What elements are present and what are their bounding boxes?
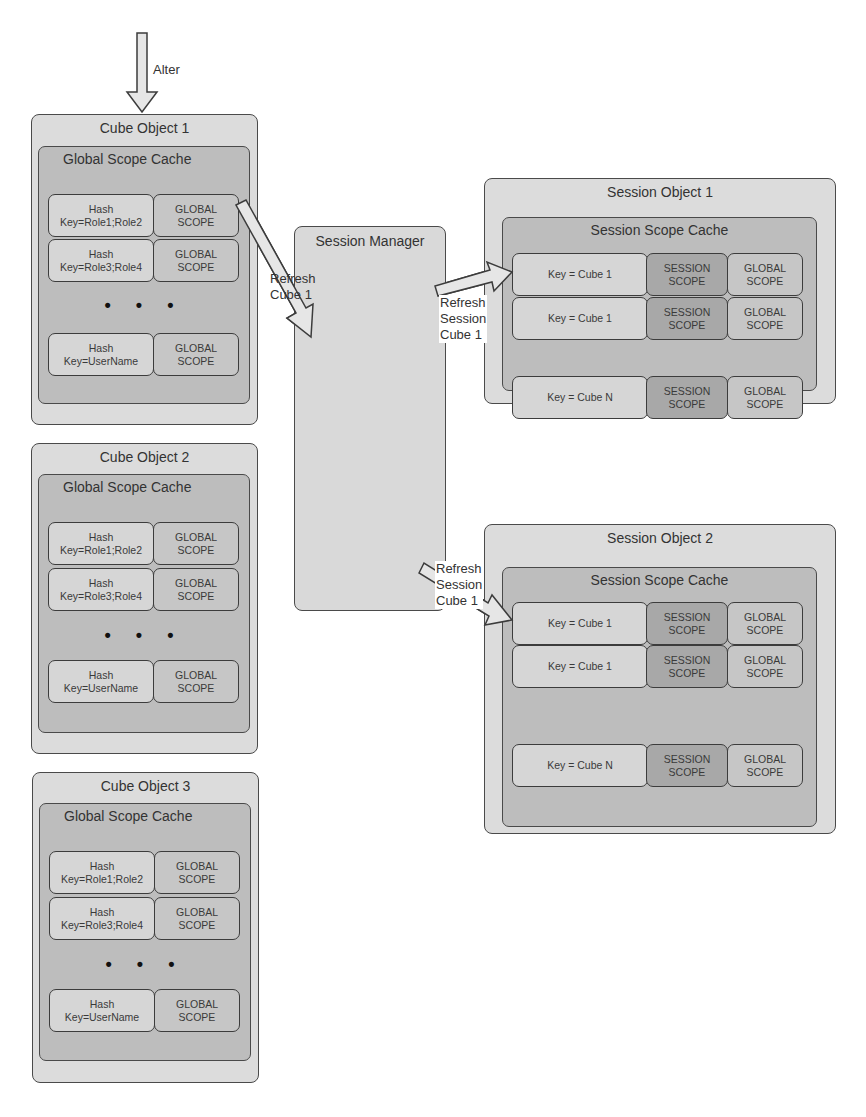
cube-key-cell: Key = Cube 1 — [512, 645, 648, 688]
global-scope-cell: GLOBAL SCOPE — [154, 851, 240, 894]
ellipsis: • • • — [39, 625, 249, 646]
global-scope-cell: GLOBAL SCOPE — [154, 897, 240, 940]
global-scope-cell: GLOBAL SCOPE — [727, 645, 803, 688]
refresh-cube-label: Refresh Cube 1 — [270, 271, 316, 303]
session-scope-cell: SESSION SCOPE — [646, 744, 728, 787]
global-scope-cell: GLOBAL SCOPE — [153, 333, 239, 376]
hash-key-cell: Hash Key=UserName — [48, 660, 154, 703]
global-scope-cell: GLOBAL SCOPE — [153, 660, 239, 703]
global-scope-cell: GLOBAL SCOPE — [727, 253, 803, 296]
global-scope-cell: GLOBAL SCOPE — [153, 568, 239, 611]
session-scope-cache: Session Scope Cache Key = Cube 1 SESSION… — [502, 567, 817, 827]
cube-key-cell: Key = Cube 1 — [512, 297, 648, 340]
hash-key-cell: Hash Key=Role1;Role2 — [49, 851, 155, 894]
cube-key-cell: Key = Cube 1 — [512, 253, 648, 296]
session-scope-cache: Session Scope Cache Key = Cube 1 SESSION… — [502, 217, 817, 391]
hash-key-cell: Hash Key=Role1;Role2 — [48, 194, 154, 237]
session-manager: Session Manager — [294, 226, 446, 611]
cache-title: Session Scope Cache — [503, 222, 816, 238]
cache-title: Session Scope Cache — [503, 572, 816, 588]
cache-title: Global Scope Cache — [64, 808, 250, 824]
global-scope-cell: GLOBAL SCOPE — [154, 989, 240, 1032]
session-scope-cell: SESSION SCOPE — [646, 645, 728, 688]
global-scope-cell: GLOBAL SCOPE — [727, 297, 803, 340]
cube-object-1: Cube Object 1 Global Scope Cache Hash Ke… — [31, 114, 258, 425]
session-scope-cell: SESSION SCOPE — [646, 297, 728, 340]
global-scope-cache: Global Scope Cache Hash Key=Role1;Role2 … — [39, 803, 251, 1061]
hash-key-cell: Hash Key=Role3;Role4 — [49, 897, 155, 940]
global-scope-cache: Global Scope Cache Hash Key=Role1;Role2 … — [38, 146, 250, 404]
session-object-title: Session Object 2 — [485, 530, 835, 546]
global-scope-cell: GLOBAL SCOPE — [153, 194, 239, 237]
ellipsis: • • • — [39, 295, 249, 316]
session-scope-cell: SESSION SCOPE — [646, 376, 728, 419]
session-manager-title: Session Manager — [295, 233, 445, 249]
hash-key-cell: Hash Key=UserName — [48, 333, 154, 376]
global-scope-cell: GLOBAL SCOPE — [153, 239, 239, 282]
hash-key-cell: Hash Key=Role1;Role2 — [48, 522, 154, 565]
cache-title: Global Scope Cache — [63, 151, 249, 167]
cube-object-3: Cube Object 3 Global Scope Cache Hash Ke… — [32, 772, 259, 1083]
ellipsis: • • • — [40, 954, 250, 975]
global-scope-cell: GLOBAL SCOPE — [727, 744, 803, 787]
refresh-session-label-2: Refresh Session Cube 1 — [435, 561, 483, 609]
hash-key-cell: Hash Key=Role3;Role4 — [48, 568, 154, 611]
hash-key-cell: Hash Key=UserName — [49, 989, 155, 1032]
alter-label: Alter — [153, 62, 180, 78]
session-scope-cell: SESSION SCOPE — [646, 253, 728, 296]
cube-object-title: Cube Object 3 — [33, 778, 258, 794]
global-scope-cell: GLOBAL SCOPE — [727, 376, 803, 419]
cube-object-title: Cube Object 1 — [32, 120, 257, 136]
session-object-title: Session Object 1 — [485, 184, 835, 200]
global-scope-cell: GLOBAL SCOPE — [153, 522, 239, 565]
refresh-session-label-1: Refresh Session Cube 1 — [439, 295, 487, 343]
cube-object-title: Cube Object 2 — [32, 449, 257, 465]
cube-key-cell: Key = Cube 1 — [512, 602, 648, 645]
session-object-2: Session Object 2 Session Scope Cache Key… — [484, 524, 836, 834]
cube-key-cell: Key = Cube N — [512, 744, 648, 787]
cube-key-cell: Key = Cube N — [512, 376, 648, 419]
session-scope-cell: SESSION SCOPE — [646, 602, 728, 645]
cache-title: Global Scope Cache — [63, 479, 249, 495]
hash-key-cell: Hash Key=Role3;Role4 — [48, 239, 154, 282]
global-scope-cell: GLOBAL SCOPE — [727, 602, 803, 645]
global-scope-cache: Global Scope Cache Hash Key=Role1;Role2 … — [38, 474, 250, 733]
session-object-1: Session Object 1 Session Scope Cache Key… — [484, 178, 836, 404]
cube-object-2: Cube Object 2 Global Scope Cache Hash Ke… — [31, 443, 258, 754]
